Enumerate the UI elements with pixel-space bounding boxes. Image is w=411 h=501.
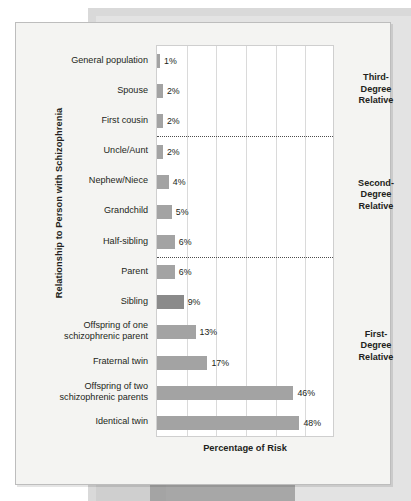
category-label: Spouse: [117, 85, 148, 96]
gridline: [276, 46, 277, 436]
bar-value-label: 2%: [167, 145, 180, 159]
bar-value-label: 13%: [200, 325, 218, 339]
bar-value-label: 2%: [167, 84, 180, 98]
gridline: [305, 46, 306, 436]
bar: [157, 145, 163, 159]
bar-chart: General populationSpouseFirst cousinUncl…: [34, 33, 374, 448]
bar: [157, 235, 175, 249]
group-separator: [157, 257, 333, 258]
gridline: [216, 46, 217, 436]
category-label: Fraternal twin: [93, 356, 148, 367]
bar-value-label: 1%: [164, 54, 177, 68]
category-label: General population: [71, 55, 148, 66]
bar: [157, 114, 163, 128]
bar: [157, 295, 184, 309]
bar: [157, 265, 175, 279]
bar-value-label: 6%: [179, 265, 192, 279]
x-axis-title: Percentage of Risk: [156, 443, 334, 453]
plot-area: 1%2%2%2%4%5%6%6%9%13%17%46%48%: [156, 45, 334, 437]
category-label: Half-sibling: [103, 236, 148, 247]
bar-value-label: 48%: [303, 416, 321, 430]
category-label: Nephew/Niece: [89, 175, 148, 186]
bar-value-label: 5%: [176, 205, 189, 219]
bar: [157, 325, 196, 339]
category-label-column: General populationSpouseFirst cousinUncl…: [34, 33, 152, 448]
group-label-first: First- Degree Relative: [340, 329, 411, 364]
bar-value-label: 46%: [297, 386, 315, 400]
category-label: Offspring of two schizophrenic parents: [60, 381, 148, 403]
category-label: Uncle/Aunt: [104, 145, 148, 156]
category-label: Offspring of one schizophrenic parent: [64, 320, 148, 342]
group-label-third: Third- Degree Relative: [340, 72, 411, 107]
group-label-second: Second- Degree Relative: [340, 178, 411, 213]
category-label: Identical twin: [95, 416, 148, 427]
category-label: Sibling: [121, 296, 148, 307]
bar: [157, 416, 299, 430]
bar: [157, 386, 293, 400]
bar-value-label: 9%: [188, 295, 201, 309]
bar: [157, 175, 169, 189]
bar-value-label: 17%: [211, 356, 229, 370]
bar: [157, 84, 163, 98]
bar-value-label: 6%: [179, 235, 192, 249]
group-separator: [157, 136, 333, 137]
bar-value-label: 2%: [167, 114, 180, 128]
category-label: Parent: [121, 266, 148, 277]
bar-value-label: 4%: [173, 175, 186, 189]
bar: [157, 205, 172, 219]
gridline: [246, 46, 247, 436]
chart-card: Relationship to Person with Schizophreni…: [15, 22, 391, 485]
bar: [157, 54, 160, 68]
category-label: First cousin: [102, 115, 149, 126]
bar: [157, 356, 207, 370]
category-label: Grandchild: [104, 205, 148, 216]
